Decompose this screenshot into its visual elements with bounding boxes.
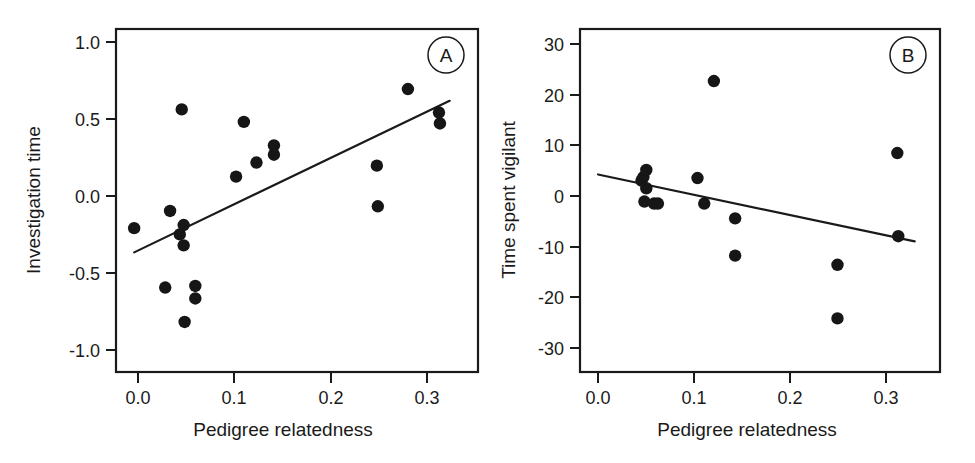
data-point [128, 222, 140, 234]
panel-b-y-ticks [570, 44, 580, 348]
data-point [892, 230, 904, 242]
x-tick-label: 0.0 [125, 388, 150, 408]
data-point [189, 292, 201, 304]
data-point [371, 159, 383, 171]
panel-b-x-axis-title: Pedigree relatedness [657, 419, 837, 440]
data-point [372, 200, 384, 212]
data-point [708, 75, 720, 87]
x-tick-label: 0.0 [585, 388, 610, 408]
figure-container: 1.0 0.5 0.0 -0.5 -1.0 0.0 0.1 0.2 0.3 Pe… [0, 0, 975, 463]
data-point [177, 239, 189, 251]
panel-b-x-ticks [598, 372, 886, 383]
y-tick-label: 0.0 [75, 187, 100, 207]
data-point [831, 312, 843, 324]
y-tick-label: 20 [544, 86, 564, 106]
data-point [159, 281, 171, 293]
data-point [691, 172, 703, 184]
data-point [164, 205, 176, 217]
panel-a-y-ticklabels: 1.0 0.5 0.0 -0.5 -1.0 [69, 33, 100, 361]
panel-b-points [635, 75, 904, 325]
panel-a-svg: 1.0 0.5 0.0 -0.5 -1.0 0.0 0.1 0.2 0.3 Pe… [0, 0, 490, 463]
panel-a: 1.0 0.5 0.0 -0.5 -1.0 0.0 0.1 0.2 0.3 Pe… [0, 0, 490, 463]
data-point [178, 316, 190, 328]
panel-b-svg: 30 20 10 0 -10 -20 -30 0.0 0.1 0.2 0.3 P… [485, 0, 975, 463]
data-point [238, 116, 250, 128]
data-point [433, 106, 445, 118]
x-tick-label: 0.3 [873, 388, 898, 408]
panel-b-letter: B [902, 45, 915, 66]
y-tick-label: 1.0 [75, 33, 100, 53]
y-tick-label: 30 [544, 35, 564, 55]
data-point [177, 219, 189, 231]
panel-a-x-ticks [138, 372, 427, 383]
panel-b: 30 20 10 0 -10 -20 -30 0.0 0.1 0.2 0.3 P… [485, 0, 975, 463]
data-point [230, 170, 242, 182]
data-point [831, 259, 843, 271]
panel-b-y-ticklabels: 30 20 10 0 -10 -20 -30 [538, 35, 564, 359]
panel-b-x-ticklabels: 0.0 0.1 0.2 0.3 [585, 388, 898, 408]
data-point [434, 117, 446, 129]
x-tick-label: 0.1 [221, 388, 246, 408]
panel-a-points [128, 83, 446, 328]
panel-a-letter-badge: A [428, 37, 464, 73]
panel-a-letter: A [440, 45, 453, 66]
y-tick-label: 0.5 [75, 110, 100, 130]
data-point [176, 103, 188, 115]
data-point [698, 197, 710, 209]
data-point [189, 280, 201, 292]
y-tick-label: -0.5 [69, 264, 100, 284]
panel-a-x-axis-title: Pedigree relatedness [193, 419, 373, 440]
panel-a-plot-frame [116, 29, 478, 372]
x-tick-label: 0.3 [414, 388, 439, 408]
panel-b-plot-frame [580, 29, 940, 372]
panel-b-letter-badge: B [890, 37, 926, 73]
x-tick-label: 0.2 [318, 388, 343, 408]
panel-a-y-ticks [106, 42, 116, 350]
y-tick-label: 0 [554, 187, 564, 207]
x-tick-label: 0.2 [777, 388, 802, 408]
panel-a-x-ticklabels: 0.0 0.1 0.2 0.3 [125, 388, 439, 408]
data-point [729, 212, 741, 224]
y-tick-label: -30 [538, 339, 564, 359]
data-point [891, 147, 903, 159]
data-point [640, 164, 652, 176]
data-point [652, 197, 664, 209]
data-point [250, 156, 262, 168]
y-tick-label: -20 [538, 288, 564, 308]
data-point [268, 149, 280, 161]
y-tick-label: 10 [544, 136, 564, 156]
y-tick-label: -1.0 [69, 341, 100, 361]
panel-b-y-axis-title: Time spent vigilant [498, 120, 519, 278]
x-tick-label: 0.1 [681, 388, 706, 408]
panel-a-y-axis-title: Investigation time [23, 126, 44, 274]
data-point [402, 83, 414, 95]
data-point [729, 249, 741, 261]
y-tick-label: -10 [538, 238, 564, 258]
data-point [640, 182, 652, 194]
